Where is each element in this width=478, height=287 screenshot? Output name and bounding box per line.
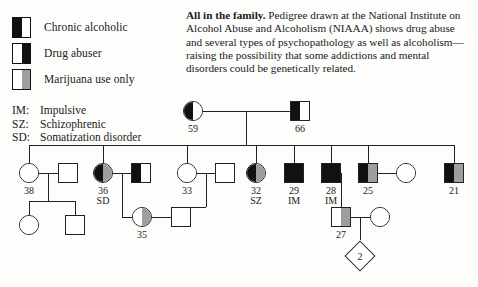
sibship-bar-g2 (29, 145, 454, 146)
drop-line-to-25 (368, 145, 369, 163)
drop-line-to-38 (29, 145, 30, 163)
drop-line-to-32 (256, 145, 257, 163)
pedigree-figure: Chronic alcoholic Drug abuser Marijuana … (0, 0, 478, 287)
legend: Chronic alcoholic Drug abuser Marijuana … (12, 14, 135, 92)
g2-male-28-note: IM (311, 195, 351, 206)
descent-line-27 (360, 217, 361, 240)
abbreviation-key-label: IM: (12, 104, 40, 118)
abbreviation-sz: SZ: Schizophrenic (12, 118, 141, 132)
g3-female-child (19, 215, 39, 235)
sibship-bar-38-children (29, 201, 75, 202)
descent-line-25 (341, 173, 342, 207)
abbreviation-text: Schizophrenic (40, 118, 106, 132)
descent-line-33 (206, 173, 207, 207)
g2-female-32 (246, 163, 266, 183)
abbreviation-key-label: SZ: (12, 118, 40, 132)
descent-line-g1 (246, 111, 247, 145)
half-filled-square-icon (12, 69, 31, 90)
g2-male-21 (444, 163, 464, 183)
marriage-line-25 (378, 173, 396, 174)
abbreviation-im: IM: Impulsive (12, 104, 141, 118)
g3-male-27 (331, 207, 351, 227)
g3-female-35-label: 35 (122, 229, 162, 240)
legend-item-chronic-alcoholic: Chronic alcoholic (12, 14, 135, 40)
g2-male-28 (321, 163, 341, 183)
g2-female-32-note: SZ (236, 195, 276, 206)
legend-item-marijuana-use-only: Marijuana use only (12, 66, 135, 92)
g1-female-59-label: 59 (173, 123, 213, 134)
drop-line-to-21 (454, 145, 455, 163)
drop-line-to-33 (187, 145, 188, 163)
g2-male-21-label: 21 (434, 185, 474, 196)
g3-spouse-of-27 (370, 207, 390, 227)
g2-female-36 (93, 163, 113, 183)
g2-spouse-of-38 (58, 163, 78, 183)
legend-item-label: Drug abuser (44, 47, 102, 59)
legend-item-label: Marijuana use only (44, 73, 135, 85)
descent-line-38 (48, 173, 49, 201)
g2-spouse-of-25 (396, 163, 416, 183)
abbreviation-text: Impulsive (40, 104, 86, 118)
descent-line-36 (122, 173, 123, 217)
g2-female-33 (177, 163, 197, 183)
abbreviation-key-label: SD: (12, 131, 40, 145)
g4-sibship-count: 2 (349, 251, 371, 262)
g1-male-66 (290, 101, 310, 121)
g2-male-29 (284, 163, 304, 183)
legend-item-label: Chronic alcoholic (44, 21, 128, 33)
g2-female-36-note: SD (83, 195, 123, 206)
drop-line-38-child1 (29, 201, 30, 215)
legend-item-drug-abuser: Drug abuser (12, 40, 135, 66)
g2-female-33-label: 33 (167, 185, 207, 196)
abbreviation-key: IM: Impulsive SZ: Schizophrenic SD: Soma… (12, 104, 141, 145)
abbreviation-text: Somatization disorder (40, 131, 141, 145)
marriage-line-35 (152, 217, 171, 218)
g3-male-child (65, 215, 85, 235)
drop-line-38-child2 (75, 201, 76, 215)
g3-male-27-label: 27 (321, 229, 361, 240)
g2-male-29-note: IM (274, 195, 314, 206)
g2-male-25-label: 25 (348, 185, 388, 196)
caption-headline: All in the family. (186, 9, 266, 21)
g2-female-38 (19, 163, 39, 183)
g2-spouse-of-36 (131, 163, 151, 183)
abbreviation-sd: SD: Somatization disorder (12, 131, 141, 145)
g1-female-59 (183, 101, 203, 121)
half-filled-square-icon (12, 17, 31, 38)
drop-line-to-36 (103, 145, 104, 163)
g2-female-38-label: 38 (9, 185, 49, 196)
g2-male-25 (358, 163, 378, 183)
g3-female-35 (132, 207, 152, 227)
g1-male-66-label: 66 (280, 123, 320, 134)
g2-spouse-of-33 (215, 163, 235, 183)
drop-line-to-28 (331, 145, 332, 163)
half-filled-square-icon (12, 43, 31, 64)
g3-spouse-of-35 (171, 207, 191, 227)
drop-line-to-29 (294, 145, 295, 163)
figure-caption: All in the family. Pedigree drawn at the… (186, 9, 472, 75)
